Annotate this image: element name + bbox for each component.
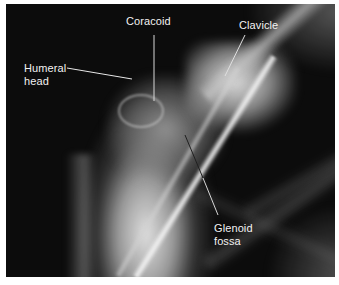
label-coracoid: Coracoid [126,15,171,28]
label-glenoid-fossa: Glenoid fossa [214,222,253,248]
glenoid-leader-light [203,178,218,215]
label-humeral-head: Humeral head [24,62,66,88]
leader-lines [0,0,339,285]
label-clavicle: Clavicle [239,19,278,32]
glenoid-leader-dark [185,135,203,178]
humeral-head-leader [67,68,132,79]
clavicle-leader [225,35,245,76]
